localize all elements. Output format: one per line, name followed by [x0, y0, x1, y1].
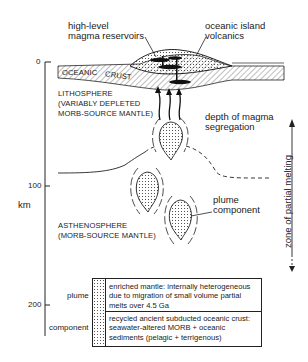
legend-row-recycled-crust: recycled ancient subducted oceanic crust… — [109, 314, 259, 342]
label-asthenosphere-1: ASTHENOSPHERE — [58, 221, 127, 231]
legend-box: enriched mantle: internally heterogeneou… — [92, 278, 262, 347]
legend-side-label-1: plume — [67, 291, 89, 301]
rising-magma-arrows — [155, 86, 182, 120]
axis-tick-100: 100 — [28, 181, 41, 191]
depth-axis — [45, 62, 51, 336]
axis-tick-0: 0 — [36, 57, 40, 67]
legend-dotted-swatch — [93, 279, 106, 346]
label-oceanic: OCEANIC — [62, 68, 97, 78]
label-partial-melting: zone of partial melting — [282, 155, 293, 248]
label-lithosphere-2: (VARIABLY DEPLETED — [58, 99, 140, 109]
label-lithosphere-3: MORB-SOURCE MANTLE) — [58, 109, 153, 119]
label-plume-component-2: component — [213, 205, 260, 215]
label-reservoirs-2: magma reservoirs — [68, 31, 144, 41]
legend-row-enriched-mantle: enriched mantle: internally heterogeneou… — [109, 282, 259, 310]
axis-tick-200: 200 — [28, 300, 41, 310]
label-volcanics-2: volcanics — [205, 31, 244, 41]
label-asthenosphere-2: (MORB-SOURCE MANTLE) — [58, 231, 156, 241]
plume-blobs — [136, 122, 191, 240]
legend-side-label-2: component — [49, 323, 89, 333]
legend-divider — [106, 311, 261, 312]
lithosphere-base — [58, 152, 145, 173]
label-segregation-2: segregation — [205, 122, 255, 132]
axis-unit: km — [18, 200, 31, 210]
label-lithosphere-1: LITHOSPHERE — [58, 89, 113, 99]
